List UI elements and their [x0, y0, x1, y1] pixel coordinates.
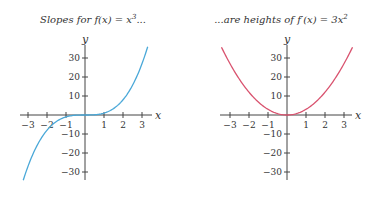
- y-tick-label: −30: [61, 167, 80, 177]
- chart-title: Slopes for f(x) = x3...: [40, 13, 146, 25]
- y-tick-label: −30: [263, 167, 282, 177]
- x-axis-label: x: [155, 109, 162, 122]
- x-tick-label: −3: [21, 120, 35, 130]
- y-tick-label: −20: [263, 148, 282, 158]
- y-tick-label: −10: [61, 129, 80, 139]
- x-tick-label: −2: [242, 120, 255, 130]
- y-tick-label: −20: [61, 148, 80, 158]
- y-tick-label: 30: [69, 53, 81, 63]
- y-tick-label: 10: [271, 91, 283, 101]
- chart-panel-2: ...are heights of f′(x) = 3x2xy−3−2−1123…: [214, 13, 362, 180]
- y-axis-label: y: [81, 33, 89, 46]
- y-tick-label: 10: [69, 91, 81, 101]
- x-tick-label: 3: [341, 120, 347, 130]
- y-axis-label: y: [283, 33, 291, 46]
- y-tick-label: −10: [263, 129, 282, 139]
- x-tick-label: 1: [303, 120, 309, 130]
- x-axis-label: x: [355, 109, 362, 122]
- x-tick-label: 1: [101, 120, 107, 130]
- y-tick-label: 20: [271, 72, 283, 82]
- y-tick-label: 30: [271, 53, 283, 63]
- x-tick-label: 3: [139, 120, 145, 130]
- x-tick-label: 2: [322, 120, 328, 130]
- chart-panel-1: Slopes for f(x) = x3...xy−3−2−1123302010…: [20, 13, 162, 180]
- chart-title: ...are heights of f′(x) = 3x2: [214, 13, 348, 25]
- y-tick-label: 20: [69, 72, 81, 82]
- x-tick-label: −3: [223, 120, 237, 130]
- derivative-charts: Slopes for f(x) = x3...xy−3−2−1123302010…: [0, 0, 374, 200]
- x-tick-label: 2: [120, 120, 126, 130]
